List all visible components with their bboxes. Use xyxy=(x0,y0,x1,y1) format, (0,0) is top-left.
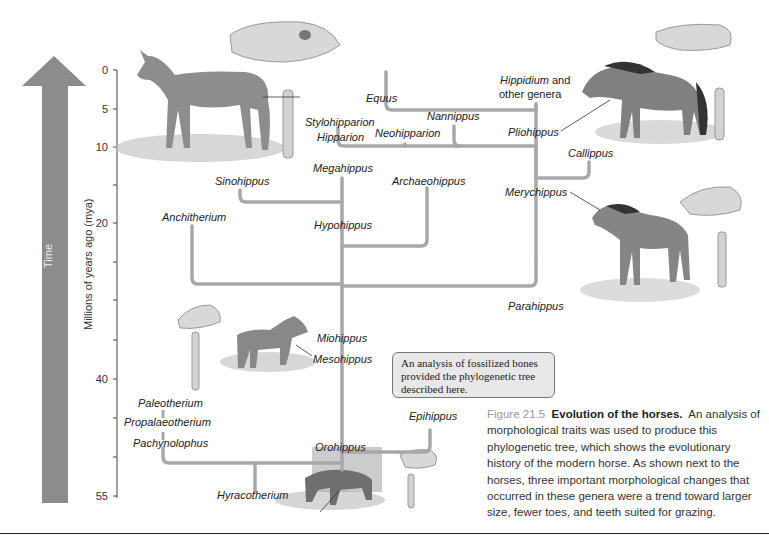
label-archaeohippus: Archaeohippus xyxy=(392,175,465,187)
label-miohippus: Miohippus xyxy=(317,332,367,344)
label-neohipparion: Neohipparion xyxy=(375,127,440,139)
label-other-genera: other genera xyxy=(499,88,561,100)
label-equus: Equus xyxy=(366,92,397,104)
branch-parahippus xyxy=(342,258,536,286)
label-pliohippus: Pliohippus xyxy=(508,126,559,138)
label-parahippus: Parahippus xyxy=(508,300,564,312)
label-megahippus: Megahippus xyxy=(313,162,373,174)
label-epihippus: Epihippus xyxy=(409,410,457,422)
label-hipparion: Hipparion xyxy=(317,131,364,143)
label-sinohippus: Sinohippus xyxy=(215,175,269,187)
label-anchitherium: Anchitherium xyxy=(162,211,226,223)
label-stylohipparion: Stylohipparion xyxy=(305,116,375,128)
label-callippus: Callippus xyxy=(568,147,613,159)
branch-callippus xyxy=(536,162,589,178)
label-propalaeotherium: Propalaeotherium xyxy=(124,416,211,428)
figure-body: An analysis of morphological traits was … xyxy=(487,408,760,518)
branch-nannippus xyxy=(454,126,460,146)
branch-archaeohippus xyxy=(342,188,427,246)
bottom-rule xyxy=(0,533,769,534)
label-hippidium: Hippidium and xyxy=(500,74,570,86)
branch-anchitherium xyxy=(192,226,342,284)
label-pachynolophus: Pachynolophus xyxy=(133,437,208,449)
label-orohippus: Orohippus xyxy=(315,441,366,453)
fossil-analysis-callout: An analysis of fossilized bones provided… xyxy=(392,352,555,398)
branch-sinohippus xyxy=(240,190,342,202)
label-paleotherium: Paleotherium xyxy=(138,397,203,409)
label-hypohippus: Hypohippus xyxy=(314,219,372,231)
label-hyracotherium: Hyracotherium xyxy=(217,489,289,501)
figure-title: Evolution of the horses. xyxy=(552,408,683,420)
label-merychippus: Merychippus xyxy=(505,186,567,198)
figure-caption: Figure 21.5 Evolution of the horses. An … xyxy=(487,406,767,521)
figure-number: Figure 21.5 xyxy=(487,408,545,420)
label-mesohippus: Mesohippus xyxy=(313,353,372,365)
label-nannippus: Nannippus xyxy=(427,110,480,122)
